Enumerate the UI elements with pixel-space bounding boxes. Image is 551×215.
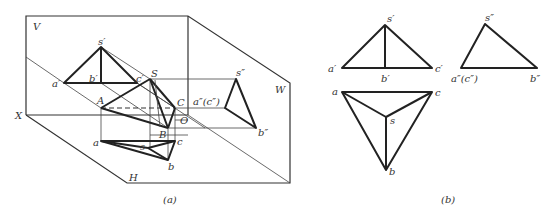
label-B: B — [158, 129, 166, 140]
figure-b: s′ a′ b′ c′ s″ a″(c″) b″ a c s b (b) — [328, 12, 540, 205]
label-b-prime-a: b′ — [89, 73, 98, 84]
space-pyramid — [101, 79, 175, 128]
label-b-double-prime-b: b″ — [530, 73, 540, 84]
label-s-double-prime-a: s″ — [236, 67, 245, 78]
label-a-prime-b: a′ — [328, 63, 337, 74]
label-A: A — [96, 95, 104, 106]
label-c-top-a: c — [177, 136, 183, 147]
label-a-top-b: a — [332, 86, 338, 97]
label-b-top-a: b — [168, 161, 174, 172]
label-S: S — [151, 68, 158, 79]
label-c-prime-b: c′ — [435, 63, 444, 74]
label-s-double-prime-b: s″ — [485, 12, 494, 23]
front-view-a — [64, 47, 137, 83]
label-a-prime-a: a′ — [52, 78, 61, 89]
axis-x-label: X — [14, 110, 23, 121]
label-a-top-a: a — [93, 137, 99, 148]
side-view-b — [461, 24, 537, 68]
caption-b: (b) — [441, 194, 455, 205]
plane-v-label: V — [33, 21, 42, 32]
label-C: C — [177, 97, 185, 108]
label-c-top-b: c — [435, 87, 441, 98]
label-s-top-b: s — [390, 115, 395, 126]
pyramid-projection-diagram: V W H X O s′ a′ b′ c′ S A C B a c s b s″… — [0, 0, 551, 215]
label-b-double-prime-a: b″ — [258, 127, 268, 138]
front-view-b — [342, 25, 432, 68]
side-view-a — [225, 79, 256, 128]
top-view-a — [101, 141, 175, 160]
caption-a: (a) — [163, 194, 177, 205]
label-c-prime-a: c′ — [136, 73, 145, 84]
figure-a: V W H X O s′ a′ b′ c′ S A C B a c s b s″… — [14, 16, 290, 205]
plane-h-label: H — [128, 172, 138, 183]
label-ac-double-prime-b: a″(c″) — [451, 73, 478, 84]
top-view-b — [342, 92, 432, 170]
origin-o-label: O — [180, 115, 188, 126]
label-b-top-b: b — [389, 166, 395, 177]
label-s-top-a: s — [140, 141, 145, 152]
plane-w-label: W — [275, 84, 286, 95]
label-b-prime-b: b′ — [381, 73, 390, 84]
label-s-prime-b: s′ — [387, 13, 395, 24]
label-ac-double-prime-a: a″(c″) — [193, 96, 220, 107]
label-s-prime-a: s′ — [98, 36, 106, 47]
